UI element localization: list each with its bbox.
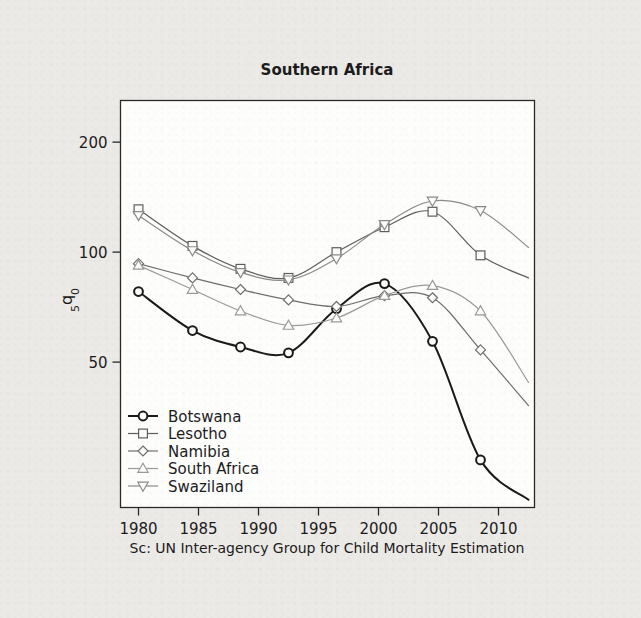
source-note: Sc: UN Inter-agency Group for Child Mort…	[130, 540, 525, 556]
series-marker	[284, 348, 293, 357]
chart-title: Southern Africa	[261, 61, 394, 79]
series-marker	[476, 251, 485, 260]
series-marker	[236, 343, 245, 352]
series-marker	[134, 287, 143, 296]
series-marker	[380, 279, 389, 288]
x-tick-label: 1990	[239, 520, 277, 538]
legend-label: Botswana	[168, 408, 241, 426]
legend-label: Namibia	[168, 443, 230, 461]
legend-marker-circle-icon	[139, 412, 148, 421]
series-marker	[428, 207, 437, 216]
y-tick-label: 200	[79, 134, 108, 152]
chart-figure: Southern Africa 50100200 198019851990199…	[0, 0, 641, 618]
x-tick-label: 2005	[419, 520, 457, 538]
chart-canvas: Southern Africa 50100200 198019851990199…	[0, 0, 641, 618]
series-marker	[476, 455, 485, 464]
y-tick-label: 100	[79, 244, 108, 262]
y-axis-label-sub-left: 5	[69, 305, 82, 312]
x-tick-label: 1980	[119, 520, 157, 538]
y-tick-label: 50	[88, 354, 107, 372]
x-tick-label: 2000	[359, 520, 397, 538]
x-tick-label: 2010	[479, 520, 517, 538]
series-marker	[188, 326, 197, 335]
series-marker	[428, 337, 437, 346]
y-axis-label-main: q	[57, 295, 76, 305]
legend-label: Swaziland	[168, 478, 243, 496]
legend-label: Lesotho	[168, 425, 227, 443]
legend-marker-square-icon	[139, 429, 148, 438]
x-tick-label: 1995	[299, 520, 337, 538]
legend-label: South Africa	[168, 460, 259, 478]
x-tick-label: 1985	[179, 520, 217, 538]
y-axis-label-sub-right: 0	[69, 288, 82, 295]
